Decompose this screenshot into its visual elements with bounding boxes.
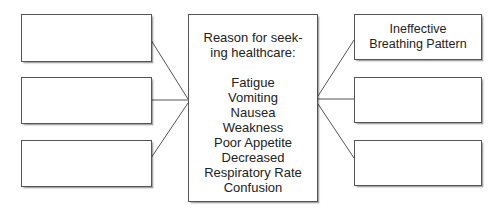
left-box-1 <box>21 14 152 62</box>
symptom-item: Fatigue <box>231 75 274 90</box>
symptom-item: Vomiting <box>228 90 278 105</box>
connector-left-top <box>151 40 188 99</box>
symptom-item: Confusion <box>224 180 283 195</box>
center-box-reason-for-seeking-healthcare: Reason for seek- ing healthcare: Fatigue… <box>188 14 318 202</box>
right-box-3 <box>354 140 482 186</box>
symptom-item: Respiratory Rate <box>204 165 302 180</box>
center-heading-line2: ing healthcare: <box>210 45 295 60</box>
symptom-item: Poor Appetite <box>214 135 292 150</box>
center-heading-line1: Reason for seek- <box>204 30 303 45</box>
symptom-item: Decreased <box>222 150 285 165</box>
connector-left-bottom <box>151 103 188 158</box>
connector-right-top <box>318 40 354 96</box>
left-box-3 <box>21 140 152 187</box>
symptom-item: Weakness <box>223 120 283 135</box>
symptom-item: Nausea <box>231 105 276 120</box>
connector-right-bottom <box>318 104 354 158</box>
left-box-2 <box>21 77 152 124</box>
right-box-2 <box>354 77 482 123</box>
right-box-1-ineffective-breathing-pattern: Ineffective Breathing Pattern <box>354 14 482 60</box>
